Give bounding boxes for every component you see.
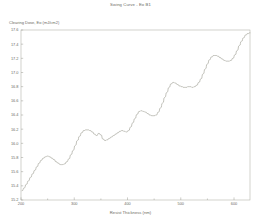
x-tick-label: 500 [178,201,185,206]
y-tick-label: 17.6 [11,27,19,32]
x-tick-label: 300 [71,201,78,206]
plot-area: 15.215.415.615.816.016.216.416.616.817.0… [0,0,261,223]
y-tick-label: 17.0 [11,70,19,75]
y-tick-label: 16.4 [11,112,19,117]
x-tick-label: 600 [231,201,238,206]
x-axis-ticks [21,197,234,200]
x-tick-label: 200 [18,201,25,206]
data-series-line [22,33,250,191]
y-tick-label: 17.2 [11,56,19,61]
y-axis-tick-labels: 15.215.415.615.816.016.216.416.616.817.0… [11,27,19,202]
y-tick-label: 17.4 [11,42,19,47]
x-axis-label: Resist Thickness (nm) [0,210,261,215]
y-tick-label: 16.0 [11,141,19,146]
y-tick-label: 16.6 [11,98,19,103]
y-tick-label: 16.8 [11,84,19,89]
y-axis-ticks [21,30,23,200]
y-tick-label: 15.6 [11,169,19,174]
chart-figure: Swing Curve - Eo B1 Clearing Dose, Eo (m… [0,0,261,223]
y-tick-label: 15.4 [11,183,19,188]
x-tick-label: 400 [124,201,131,206]
y-tick-label: 15.8 [11,155,19,160]
x-axis-tick-labels: 200300400500600 [18,201,238,206]
y-tick-label: 16.2 [11,127,19,132]
